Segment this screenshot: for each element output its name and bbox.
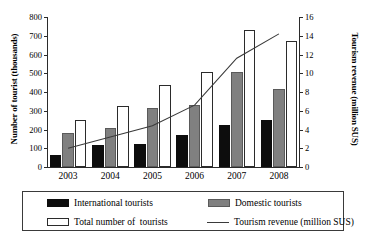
y-axis-right-tick-label: 12 [305,51,314,60]
legend-item-international-tourists: International tourists [23,193,200,212]
x-axis-tick-label-2007: 2007 [217,171,257,181]
y-axis-left-tick-label: 100 [29,144,42,153]
y-axis-right-tick [300,111,303,112]
y-axis-right-title: Tourism revenue (million SUS) [350,14,360,164]
legend-swatch-line-icon [207,222,229,223]
legend-label: Tourism revenue (million SUS) [234,217,354,227]
y-axis-right-tick-label: 10 [305,69,314,78]
y-axis-right-tick [300,130,303,131]
y-axis-left-tick-label: 300 [29,107,42,116]
y-axis-right-tick-label: 16 [305,13,314,22]
x-axis-tick-label-2008: 2008 [259,171,299,181]
x-axis-tick-label-2006: 2006 [175,171,215,181]
y-axis-right-tick-label: 6 [305,107,309,116]
legend-item-total-number-of-tourists: Total number of tourists [23,212,199,231]
plot-area: 0100200300400500600700800 0246810121416 … [47,17,300,168]
legend-item-domestic-tourists: Domestic tourists [200,193,343,212]
y-axis-right-tick-label: 8 [305,88,309,97]
y-axis-left-tick-label: 0 [38,163,42,172]
y-axis-right-tick [300,17,303,18]
legend-label: Total number of tourists [74,217,168,227]
y-axis-left-title: Number of tourist (thousands) [9,14,19,164]
y-axis-right-tick [300,92,303,93]
y-axis-right-tick [300,36,303,37]
legend-label: Domestic tourists [235,198,302,208]
y-axis-left-tick-label: 800 [29,13,42,22]
y-axis-right-tick [300,167,303,168]
y-axis-right-tick-label: 4 [305,126,309,135]
x-axis-tick-label-2004: 2004 [90,171,130,181]
y-axis-left-tick-label: 500 [29,69,42,78]
legend-swatch-filled-gray-square-icon [208,199,230,207]
legend-swatch-open-white-square-icon [47,218,69,226]
chart-figure: Number of tourist (thousands) Tourism re… [0,0,365,239]
y-axis-right-tick-label: 14 [305,32,314,41]
legend-row: Total number of tourists Tourism revenue… [23,212,343,231]
legend-item-tourism-revenue: Tourism revenue (million SUS) [199,212,343,231]
y-axis-left-tick-label: 200 [29,126,42,135]
y-axis-left-tick-label: 400 [29,88,42,97]
y-axis-left-tick-label: 700 [29,32,42,41]
x-axis-tick-label-2003: 2003 [48,171,88,181]
y-axis-right-tick-label: 0 [305,163,309,172]
x-axis-tick-label-2005: 2005 [132,171,172,181]
y-axis-right-tick [300,73,303,74]
y-axis-right-tick-label: 2 [305,144,309,153]
y-axis-right-tick [300,148,303,149]
y-axis-left-tick-label: 600 [29,51,42,60]
legend-label: International tourists [74,198,153,208]
legend-swatch-filled-black-square-icon [47,199,69,207]
y-axis-right-tick [300,55,303,56]
chart-legend: International tourists Domestic tourists… [22,191,344,231]
revenue-line-series [47,17,300,168]
legend-row: International tourists Domestic tourists [23,193,343,212]
